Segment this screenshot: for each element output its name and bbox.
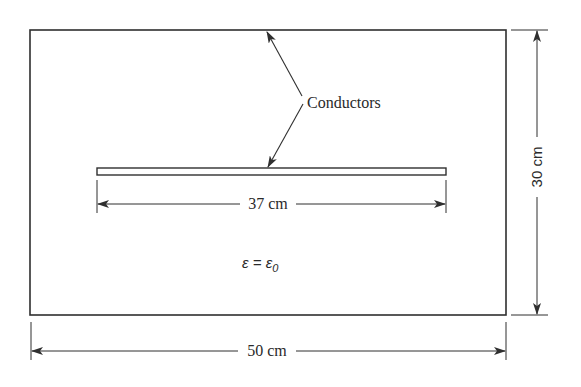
arrow-to-inner-plate: [268, 104, 303, 167]
permittivity-subscript: 0: [272, 262, 279, 274]
inner-plate-conductor: [97, 168, 446, 175]
permittivity-main: ε = ε: [242, 254, 273, 271]
outer-conductor-box: [30, 30, 506, 315]
arrow-to-outer-conductor: [267, 32, 302, 96]
conductors-pointer-arrows: [267, 32, 303, 167]
plate-width-label: 37 cm: [248, 195, 288, 212]
conductors-label: Conductors: [307, 94, 381, 111]
box-height-label: 30 cm: [528, 147, 545, 188]
permittivity-label: ε = ε0: [242, 254, 279, 274]
conductor-geometry-diagram: Conductors 37 cm ε = ε0 30 cm 50 cm: [0, 0, 581, 387]
box-width-label: 50 cm: [247, 342, 287, 359]
